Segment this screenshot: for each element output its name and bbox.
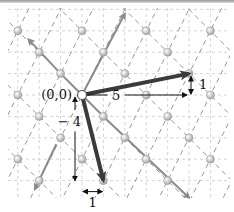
lattice-point xyxy=(206,91,214,99)
lattice-point xyxy=(206,27,214,35)
v2-dy-label: − 4 xyxy=(58,114,81,129)
lattice-point xyxy=(164,48,172,56)
v2-dx-label: 1 xyxy=(89,195,97,210)
lattice-point xyxy=(142,155,150,163)
lattice-line-b1 xyxy=(0,0,234,52)
lattice-point xyxy=(14,27,22,35)
lattice-line-b1 xyxy=(0,0,234,9)
v1-dy-label: 1 xyxy=(199,77,207,92)
lattice-point xyxy=(78,27,86,35)
origin-label: (0,0) xyxy=(41,87,72,102)
lattice-point xyxy=(164,112,172,120)
lattice-point xyxy=(35,48,43,56)
lattice-point xyxy=(14,91,22,99)
lattice-point xyxy=(185,134,193,142)
lattice-diagram: (0,0) 5 1 1 − 4 xyxy=(0,0,234,212)
lattice-point xyxy=(121,70,129,78)
lattice-line-b2 xyxy=(18,0,234,212)
lattice-point xyxy=(35,112,43,120)
lattice-point xyxy=(206,155,214,163)
lattice-point xyxy=(142,27,150,35)
lattice-point xyxy=(57,70,65,78)
main-vector-v1 xyxy=(82,74,189,95)
lattice-point xyxy=(35,177,43,185)
lattice-point xyxy=(121,134,129,142)
lattice-point xyxy=(164,177,172,185)
lattice-line-b1 xyxy=(0,181,168,212)
background-grid xyxy=(8,8,230,198)
lattice-point xyxy=(14,155,22,163)
gray-arrow-a-upleft xyxy=(29,39,61,73)
origin-point xyxy=(78,91,87,100)
lattice-point xyxy=(99,48,107,56)
v1-dx-label: 5 xyxy=(112,88,120,103)
lattice-point xyxy=(99,112,107,120)
lattice-point xyxy=(78,155,86,163)
lattice-point xyxy=(57,134,65,142)
lattice-points xyxy=(14,27,215,185)
